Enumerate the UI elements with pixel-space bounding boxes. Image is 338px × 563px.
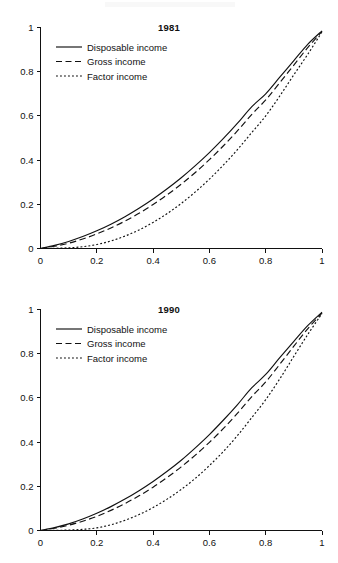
y-tick-label: 0.6 <box>20 110 33 121</box>
legend-label: Gross income <box>87 56 146 67</box>
x-tick-label: 0.8 <box>259 255 272 266</box>
lorenz-plot-1990: 00.20.40.60.8100.20.40.60.81Disposable i… <box>0 282 338 563</box>
y-tick-label: 1 <box>28 22 33 33</box>
y-tick-label: 0.4 <box>20 437 33 448</box>
legend-label: Disposable income <box>87 324 167 335</box>
x-tick-label: 0.8 <box>259 537 272 548</box>
x-tick-label: 1 <box>319 255 324 266</box>
chart-panel-1990: 1990 00.20.40.60.8100.20.40.60.81Disposa… <box>0 282 338 563</box>
y-tick-label: 1 <box>28 304 33 315</box>
y-tick-label: 0.8 <box>20 348 33 359</box>
legend-label: Factor income <box>87 353 147 364</box>
x-tick-label: 0.6 <box>203 537 216 548</box>
legend-label: Gross income <box>87 338 146 349</box>
series-line-disposable-income <box>41 312 323 530</box>
x-tick-label: 0.4 <box>146 255 159 266</box>
x-tick-label: 0 <box>38 255 43 266</box>
series-line-gross-income <box>41 31 323 248</box>
axis-lines <box>41 310 323 531</box>
y-tick-label: 0.8 <box>20 66 33 77</box>
y-tick-label: 0 <box>28 525 33 536</box>
series-line-gross-income <box>41 313 323 530</box>
legend-label: Disposable income <box>87 42 167 53</box>
series-line-factor-income <box>41 313 323 530</box>
series-line-disposable-income <box>41 31 323 249</box>
series-line-factor-income <box>41 32 323 249</box>
axis-lines <box>41 28 323 249</box>
y-tick-label: 0.4 <box>20 155 33 166</box>
x-tick-label: 0.2 <box>90 537 103 548</box>
chart-panel-1981: 1981 00.20.40.60.8100.20.40.60.81Disposa… <box>0 0 338 281</box>
y-tick-label: 0.2 <box>20 481 33 492</box>
y-tick-label: 0 <box>28 243 33 254</box>
lorenz-plot-1981: 00.20.40.60.8100.20.40.60.81Disposable i… <box>0 0 338 281</box>
y-tick-label: 0.2 <box>20 199 33 210</box>
legend-label: Factor income <box>87 71 147 82</box>
x-tick-label: 0.6 <box>203 255 216 266</box>
x-tick-label: 0.2 <box>90 255 103 266</box>
x-tick-label: 0.4 <box>146 537 159 548</box>
x-tick-label: 1 <box>319 537 324 548</box>
y-tick-label: 0.6 <box>20 392 33 403</box>
x-tick-label: 0 <box>38 537 43 548</box>
